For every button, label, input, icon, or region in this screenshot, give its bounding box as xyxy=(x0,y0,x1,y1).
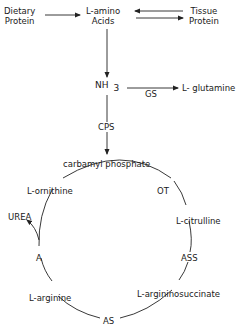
enzyme-gs: GS xyxy=(145,89,157,99)
enzyme-as: AS xyxy=(103,316,114,326)
node-nh3: NH 3 xyxy=(95,80,119,90)
node-tissue-protein: Tissue Protein xyxy=(189,6,219,26)
arc-ass-to-argininosuccinate xyxy=(179,262,188,280)
node-l-amino-acids: L-amino Acids xyxy=(86,6,120,26)
arc-arginine-to-a xyxy=(41,258,52,281)
node-l-argininosuccinate: L-argininosuccinate xyxy=(137,289,220,299)
node-urea: UREA xyxy=(8,212,31,222)
enzyme-a: A xyxy=(36,253,42,263)
tissue-label: Tissue xyxy=(189,6,219,16)
arc-a-to-ornithine xyxy=(39,190,52,246)
l-amino-label: L-amino xyxy=(86,6,120,16)
tissue-protein-label: Protein xyxy=(189,16,219,26)
enzyme-ass: ASS xyxy=(181,253,198,263)
node-l-arginine: L-arginine xyxy=(29,293,71,303)
enzyme-cps: CPS xyxy=(98,122,114,132)
protein-label: Protein xyxy=(4,16,35,26)
node-l-glutamine: L- glutamine xyxy=(182,83,235,93)
node-l-citrulline: L-citrulline xyxy=(176,216,221,226)
enzyme-ot: OT xyxy=(157,186,169,196)
arc-ot-to-citrulline xyxy=(174,181,186,205)
nh3-label: NH xyxy=(95,80,109,90)
nh3-subscript: 3 xyxy=(113,83,119,93)
dietary-label: Dietary xyxy=(4,6,35,16)
arrow-a-to-urea xyxy=(27,220,39,240)
node-carbamyl-phosphate: carbamyl phosphate xyxy=(63,159,150,169)
node-dietary-protein: Dietary Protein xyxy=(4,6,35,26)
node-l-ornithine: L-ornithine xyxy=(27,186,73,196)
acids-label: Acids xyxy=(86,16,120,26)
